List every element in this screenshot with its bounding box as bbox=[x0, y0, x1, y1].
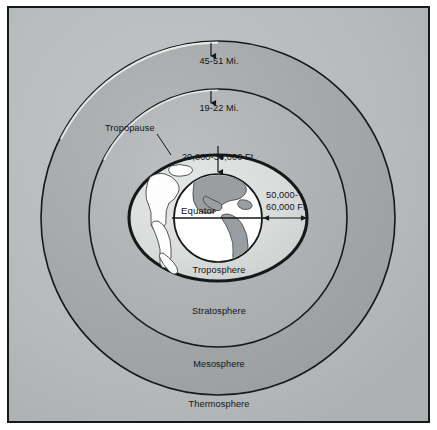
troposphere-label: Troposphere bbox=[193, 265, 246, 276]
equatorial-altitude-line-2: 60,000 Ft. bbox=[266, 202, 308, 214]
tropopause-label: Tropopause bbox=[105, 123, 155, 134]
stratopause-altitude-label: 19-22 Mi. bbox=[199, 103, 238, 114]
mesopause-altitude-label: 45-51 Mi. bbox=[199, 56, 238, 67]
atmosphere-diagram: 45-51 Mi. 19-22 Mi. Tropopause 20,000-30… bbox=[0, 0, 437, 430]
mesosphere-label: Mesosphere bbox=[193, 359, 245, 370]
thermosphere-label: Thermosphere bbox=[189, 399, 250, 410]
equatorial-altitude-line-1: 50,000- bbox=[266, 190, 308, 202]
equator-label: Equator bbox=[181, 205, 215, 216]
tropopause-altitude-polar-label: 20,000-30,000 Ft. bbox=[182, 152, 256, 163]
tropopause-altitude-equatorial-label: 50,000- 60,000 Ft. bbox=[266, 190, 308, 213]
stratosphere-label: Stratosphere bbox=[192, 306, 246, 317]
